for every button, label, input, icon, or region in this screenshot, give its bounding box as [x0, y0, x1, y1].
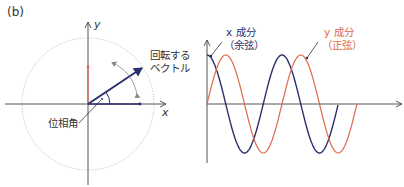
sine-label-leader [307, 42, 318, 58]
sine-label: y 成分 （正弦） [322, 26, 362, 52]
phase-angle-arc [106, 92, 110, 104]
rotating-vector-arrow [88, 68, 142, 104]
panel-label: (b) [7, 6, 24, 19]
cosine-label-leader [211, 42, 222, 56]
x-axis-label: x [162, 106, 169, 119]
y-axis-label: y [94, 18, 101, 31]
cosine-label: x 成分 （余弦） [224, 26, 264, 52]
rotating-vector-label: 回転する ベクトル [150, 49, 190, 75]
phase-angle-label: 位相角 [48, 117, 78, 130]
